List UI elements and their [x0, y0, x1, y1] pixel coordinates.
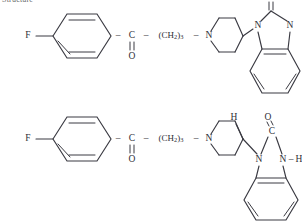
bond-n-right-to-benzene-bottom — [283, 166, 286, 178]
urea-carbonyl-double-bond-2-bottom — [271, 121, 273, 125]
urea-carbonyl-oxygen-label-bottom: O — [265, 112, 272, 122]
bond-n-left-to-benzene-bottom — [256, 166, 259, 178]
bond-dash-n-h-bottom: – — [288, 154, 294, 164]
bond-dash-carbonyl-chain-top: – — [143, 30, 149, 40]
bond-c4-to-urea-nitrogen-bottom — [243, 139, 257, 154]
piperidine-c4-hydrogen-label-bottom: H — [231, 112, 238, 122]
structure-bottom: F – C O – (CH2)3 – N H N N – H — [0, 110, 302, 221]
carbonyl-carbon-label-bottom: C — [129, 133, 135, 143]
bond-dash-chain-piperidine-top: – — [193, 30, 199, 40]
fluorine-atom-label-top: F — [25, 30, 30, 40]
piperidine-bond-c4-c5-top — [235, 36, 243, 52]
bond-piperidine-to-imidazolone-top — [243, 29, 253, 36]
piperidine-nitrogen-label-bottom: N — [206, 133, 213, 143]
imidazolone-bond-n1-c7a-top — [258, 32, 262, 49]
urea-nitrogen-left-label-bottom: N — [256, 154, 263, 164]
urea-nitrogen-right-hydrogen-label-bottom: H — [296, 154, 302, 164]
bond-dash-chain-piperidine-bottom: – — [193, 133, 199, 143]
imidazolone-n3-label-top: N — [287, 20, 294, 30]
piperidine-bond-c4-c5-bottom — [235, 139, 243, 155]
bond-urea-c-to-n-left-bottom — [261, 137, 268, 154]
urea-carbonyl-carbon-label-bottom: C — [269, 126, 275, 136]
ortho-benzene-ring-bottom — [244, 178, 298, 220]
fluorine-atom-label-bottom: F — [25, 133, 30, 143]
propylene-chain-label-bottom: (CH2)3 — [159, 133, 184, 143]
propylene-chain-label-top: (CH2)3 — [159, 30, 184, 40]
piperidine-bond-c6-n-bottom — [211, 144, 219, 155]
piperidine-nitrogen-label-top: N — [206, 30, 213, 40]
imidazolone-bond-n1-c2-top — [261, 11, 271, 21]
urea-nitrogen-right-label-bottom: N — [280, 154, 287, 164]
bond-urea-c-to-n-right-bottom — [276, 137, 282, 154]
fused-benzene-ring-top — [250, 49, 300, 93]
bond-dash-carbonyl-chain-bottom: – — [143, 133, 149, 143]
piperidine-bond-n-c2-top — [211, 18, 219, 31]
carbonyl-oxygen-label-top: O — [129, 51, 136, 61]
benzene-ring-fluorophenyl-top — [53, 14, 111, 58]
benzene-ring-fluorophenyl-bottom — [53, 117, 111, 161]
carbonyl-carbon-label-top: C — [129, 30, 135, 40]
imidazolone-n1-label-top: N — [255, 20, 262, 30]
piperidine-bond-n-c2-bottom — [211, 121, 219, 134]
piperidine-bond-c6-n-top — [211, 41, 219, 52]
carbonyl-oxygen-label-bottom: O — [129, 154, 136, 164]
bond-dash-ring-carbonyl-top: – — [115, 30, 121, 40]
structure-canvas: Structure F – C O – (CH2)3 – N — [0, 0, 302, 221]
piperidine-bond-c3-c4-top — [235, 18, 243, 36]
bond-c4-to-hydrogen-bottom — [236, 124, 243, 139]
imidazolone-bond-n3-c3a-top — [288, 32, 290, 49]
bond-dash-ring-carbonyl-bottom: – — [115, 133, 121, 143]
imidazolone-oxygen-label-top: O — [268, 0, 275, 1]
structure-top: F – C O – (CH2)3 – N N — [0, 0, 302, 110]
imidazolone-bond-c2-n3-top — [271, 11, 287, 21]
